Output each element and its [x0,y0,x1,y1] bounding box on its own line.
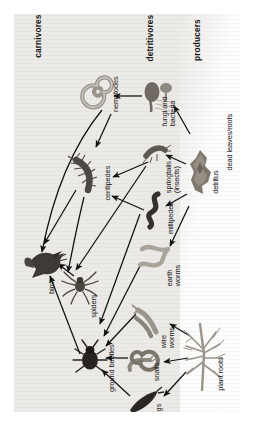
food-web-panel: carnivores detritivores producers nemato… [14,14,240,412]
zone-header-carnivores: carnivores [34,14,42,57]
bird-icon [24,251,67,278]
centipede-icon [68,153,97,190]
node-label-detritus: detritus [212,170,220,193]
diagram-canvas: carnivores detritivores producers nemato… [0,0,254,423]
node-label-millipedes: millipedes [167,202,175,234]
node-label-dead-leaves-roots: dead leaves/roots [226,114,234,171]
node-label-plant-roots: plant roots [217,357,225,390]
node-label-slugs: slugs [155,404,163,412]
node-label-spiders: spiders [90,295,98,318]
node-label-ground-beetles: ground beetles [108,344,116,392]
node-label-earthworms: earth worms [166,258,182,286]
node-label-fungi: fungi and bacteria [161,90,177,126]
node-label-springtails: springtails (insects) [165,155,181,193]
node-label-birds: birds [48,278,56,294]
node-label-wireworms: wire worms [160,320,176,348]
zone-header-producers: producers [193,19,201,61]
detritus-icon [190,150,211,194]
beetle-icon [73,340,107,372]
organism-layer [14,14,240,412]
wireworm-icon [132,305,156,336]
millipede-icon [149,194,158,227]
node-label-snails: snails [153,363,161,381]
nematode-coil-icon [82,77,112,107]
node-label-centipedes: centipedes [104,166,112,201]
node-label-nematodes: nematodes [112,76,120,112]
earthworm-icon [140,247,168,265]
zone-header-detritivores: detritivores [146,15,154,62]
